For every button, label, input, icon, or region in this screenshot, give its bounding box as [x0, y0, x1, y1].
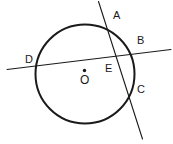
- point-label-d: D: [25, 54, 33, 65]
- center-point-dot: [83, 69, 86, 72]
- point-label-e: E: [105, 63, 112, 74]
- geometry-canvas: [0, 0, 173, 144]
- point-label-c: C: [137, 84, 145, 95]
- point-label-a: A: [113, 10, 120, 21]
- center-label-o: O: [80, 75, 89, 86]
- geometry-figure: A B C D E O: [0, 0, 173, 144]
- point-label-b: B: [137, 35, 144, 46]
